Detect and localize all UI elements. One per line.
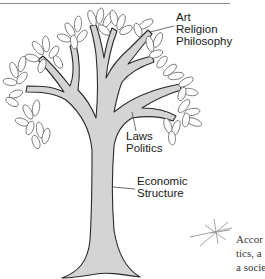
label-economic: Economic [137, 175, 188, 187]
body-text-fragment: Accor tics, a a socie [236, 232, 265, 274]
body-text-line: a socie [236, 260, 265, 274]
label-art: Art [176, 11, 232, 23]
label-economic-structure: Economic Structure [137, 175, 188, 199]
label-philosophy: Philosophy [176, 35, 232, 47]
label-laws: Laws [126, 130, 162, 142]
body-text-line: Accor [236, 232, 265, 246]
label-art-religion-philosophy: Art Religion Philosophy [176, 11, 232, 47]
leader-line-economic [113, 187, 135, 189]
label-structure: Structure [137, 187, 188, 199]
label-politics: Politics [126, 142, 162, 154]
leader-line-culture [150, 26, 174, 32]
label-religion: Religion [176, 23, 232, 35]
label-laws-politics: Laws Politics [126, 130, 162, 154]
margin-mark [190, 219, 232, 246]
body-text-line: tics, a [236, 246, 265, 260]
